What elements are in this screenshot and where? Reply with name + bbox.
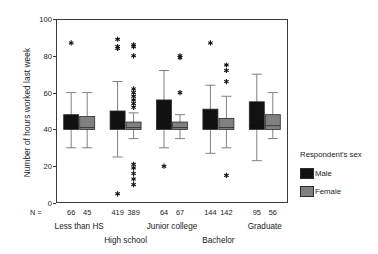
x-category-label: Junior college xyxy=(127,222,217,231)
outlier-marker xyxy=(162,164,167,169)
outlier-marker xyxy=(131,182,136,187)
outlier-marker xyxy=(69,40,74,45)
boxplot-series-layer xyxy=(56,19,288,203)
box-female-5 xyxy=(265,93,280,139)
y-tick-label: 60 xyxy=(26,88,52,97)
box-rect xyxy=(203,109,218,129)
x-category-label: Bachelor xyxy=(173,236,263,245)
x-category-label: High school xyxy=(81,236,171,245)
box-female-3 xyxy=(173,53,188,138)
outlier-marker xyxy=(178,90,183,95)
box-rect xyxy=(110,111,125,129)
legend: Respondent's sex MaleFemale xyxy=(300,150,378,204)
outlier-marker xyxy=(131,162,136,167)
box-rect xyxy=(126,122,141,129)
y-tick-label: 100 xyxy=(26,15,52,24)
y-tick-label: 40 xyxy=(26,125,52,134)
x-category-label: Less than HS xyxy=(34,222,124,231)
legend-label: Female xyxy=(315,187,341,196)
y-tick-mark xyxy=(53,203,56,204)
outlier-marker xyxy=(224,62,229,67)
n-value: 56 xyxy=(260,208,286,217)
outlier-marker xyxy=(224,79,229,84)
outlier-marker xyxy=(115,37,120,42)
outlier-marker xyxy=(131,176,136,181)
legend-swatch-male xyxy=(300,168,314,179)
outlier-marker xyxy=(131,53,136,58)
outlier-marker xyxy=(115,44,120,49)
box-female-2 xyxy=(126,42,141,187)
box-rect xyxy=(173,122,188,129)
legend-swatch-female xyxy=(300,186,314,197)
box-rect xyxy=(64,115,79,130)
box-male-5 xyxy=(249,74,264,160)
outlier-marker xyxy=(131,171,136,176)
box-male-1 xyxy=(64,40,79,147)
box-rect xyxy=(265,115,280,130)
n-value: 45 xyxy=(74,208,100,217)
n-value: 142 xyxy=(213,208,239,217)
x-category-label: Graduate xyxy=(220,222,310,231)
outlier-marker xyxy=(208,40,213,45)
legend-title: Respondent's sex xyxy=(300,150,378,159)
legend-items: MaleFemale xyxy=(300,168,378,197)
box-male-4 xyxy=(203,40,218,153)
outlier-marker xyxy=(115,191,120,196)
outlier-marker xyxy=(178,53,183,58)
n-value: 389 xyxy=(121,208,147,217)
legend-label: Male xyxy=(315,169,332,178)
y-tick-label: 20 xyxy=(26,162,52,171)
outlier-marker xyxy=(224,173,229,178)
n-prefix-label: N = xyxy=(30,208,42,217)
n-value: 67 xyxy=(167,208,193,217)
box-rect xyxy=(157,100,172,129)
box-male-3 xyxy=(157,71,172,169)
outlier-marker xyxy=(131,86,136,91)
y-tick-label: 80 xyxy=(26,51,52,60)
box-female-4 xyxy=(219,62,234,178)
box-male-2 xyxy=(110,37,125,197)
legend-item-female[interactable]: Female xyxy=(300,186,378,197)
outlier-marker xyxy=(131,42,136,47)
outlier-marker xyxy=(224,68,229,73)
boxplot-chart: Number of hours worked last week 0204060… xyxy=(0,0,378,254)
y-tick-label: 0 xyxy=(26,199,52,208)
legend-item-male[interactable]: Male xyxy=(300,168,378,179)
box-female-1 xyxy=(80,93,95,148)
